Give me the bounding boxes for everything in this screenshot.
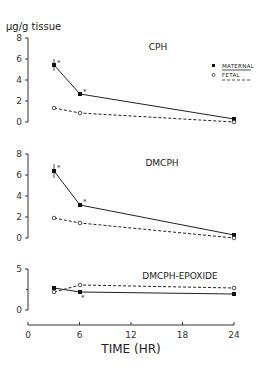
y-tick-label: 8: [16, 149, 22, 159]
y-tick-label: 0: [16, 305, 22, 315]
legend: MATERNAL FETAL: [212, 63, 255, 80]
significance-asterisk: *: [57, 59, 61, 67]
maternal-marker: [52, 169, 56, 173]
maternal-marker: [52, 63, 56, 67]
x-axis-label: TIME (HR): [100, 342, 160, 356]
maternal-marker: [232, 292, 236, 296]
y-tick-label: 4: [16, 191, 22, 201]
fetal-marker: [52, 216, 56, 220]
significance-asterisk: *: [83, 88, 87, 96]
fetal-marker: [232, 236, 236, 240]
y-tick-label: 5: [16, 264, 22, 274]
significance-asterisk: *: [81, 294, 85, 302]
panel-dmcph: 0 2 4 6 8 DMCPH * *: [16, 149, 236, 243]
y-axis-label: µg/g tissue: [6, 21, 61, 32]
significance-asterisk: *: [83, 198, 87, 206]
x-tick-label: 6: [77, 330, 83, 340]
legend-fetal-marker: [212, 74, 215, 77]
significance-asterisk: *: [57, 164, 61, 172]
maternal-marker: [78, 92, 82, 96]
legend-fetal-label: FETAL: [222, 72, 241, 78]
x-tick-label: 18: [177, 330, 189, 340]
fetal-marker: [78, 111, 82, 115]
y-tick-label: 4: [16, 75, 22, 85]
fetal-marker: [232, 286, 236, 290]
x-tick-label: 24: [228, 330, 240, 340]
legend-maternal-label: MATERNAL: [222, 63, 255, 69]
maternal-marker: [52, 286, 56, 290]
panel-title: DMCPH-EPOXIDE: [142, 271, 218, 281]
fetal-marker: [232, 120, 236, 124]
panel-dmcph-epoxide: 0 5 DMCPH-EPOXIDE *: [16, 264, 236, 315]
y-tick-label: 2: [16, 96, 22, 106]
fetal-marker: [78, 221, 82, 225]
fetal-marker: [78, 283, 82, 287]
panel-title: DMCPH: [145, 158, 178, 168]
x-tick-label: 12: [125, 330, 136, 340]
y-tick-label: 2: [16, 212, 22, 222]
y-tick-label: 0: [16, 117, 22, 127]
fetal-marker: [52, 290, 56, 294]
y-tick-label: 6: [16, 170, 22, 180]
maternal-marker: [78, 203, 82, 207]
x-tick-label: 0: [25, 330, 31, 340]
panel-cph: 0 2 4 6 8 CPH * * MATERNAL FETAL: [16, 33, 254, 127]
chart: µg/g tissue 0 2 4 6 8 CPH * * MATERNAL: [0, 0, 262, 375]
y-tick-label: 0: [16, 233, 22, 243]
fetal-marker: [52, 106, 56, 110]
panel-title: CPH: [149, 42, 167, 52]
y-tick-label: 8: [16, 33, 22, 43]
legend-maternal-marker: [212, 64, 215, 67]
fetal-line: [54, 218, 234, 238]
y-tick-label: 6: [16, 54, 22, 64]
x-axis: 0 6 12 18 24 TIME (HR): [25, 322, 240, 356]
